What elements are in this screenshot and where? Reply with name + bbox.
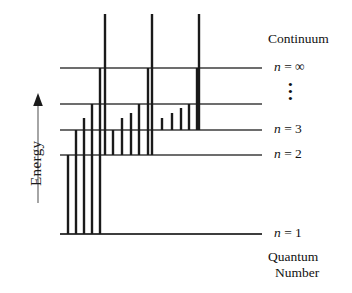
level-lines-group bbox=[60, 68, 262, 234]
vertical-ellipsis: • • • bbox=[288, 81, 293, 102]
up-arrow-icon bbox=[33, 93, 43, 106]
quantum-number-caption-line2: Number bbox=[275, 265, 319, 281]
continuum-label: Continuum bbox=[268, 31, 329, 47]
energy-axis-label: Energy bbox=[28, 141, 45, 186]
level-label-n-infinity: n = ∞ bbox=[274, 59, 305, 75]
quantum-number-caption-line1: Quantum bbox=[268, 249, 318, 265]
figure-canvas: Energy Continuum • • • n = ∞n = 3n = 2n … bbox=[0, 0, 352, 293]
level-label-n-1: n = 1 bbox=[274, 225, 302, 241]
level-label-n-2: n = 2 bbox=[274, 146, 302, 162]
level-label-n-3: n = 3 bbox=[274, 121, 302, 137]
transition-lines-group bbox=[68, 14, 199, 234]
